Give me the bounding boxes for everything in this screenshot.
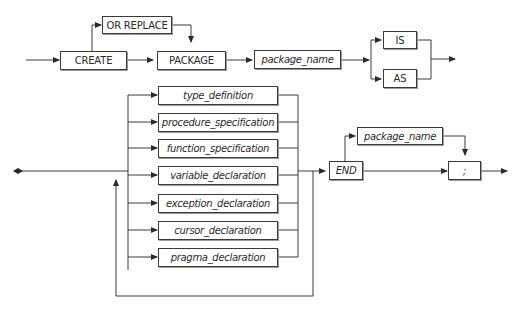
package-syntax-diagram: CREATE OR REPLACE PACKAGE package_name I… [0,0,532,315]
semicolon-box: ; [448,161,481,180]
end-package-name-box: package_name [357,127,443,145]
as-keyword-box: AS [383,69,417,88]
package-name-box: package_name [254,50,341,69]
function-specification-box: function_specification [158,139,278,158]
type-definition-box: type_definition [158,86,278,105]
cursor-declaration-box: cursor_declaration [158,221,278,240]
is-keyword-box: IS [383,31,417,49]
pragma-declaration-box: pragma_declaration [158,248,278,267]
package-keyword-box: PACKAGE [157,51,226,70]
start-diamond-icon [13,168,23,174]
variable-declaration-box: variable_declaration [158,166,278,185]
create-keyword-box: CREATE [60,51,127,70]
exception-declaration-box: exception_declaration [158,194,278,213]
or-replace-keyword-box: OR REPLACE [102,16,172,34]
procedure-specification-box: procedure_specification [158,113,278,132]
end-keyword-box: END [329,161,363,180]
